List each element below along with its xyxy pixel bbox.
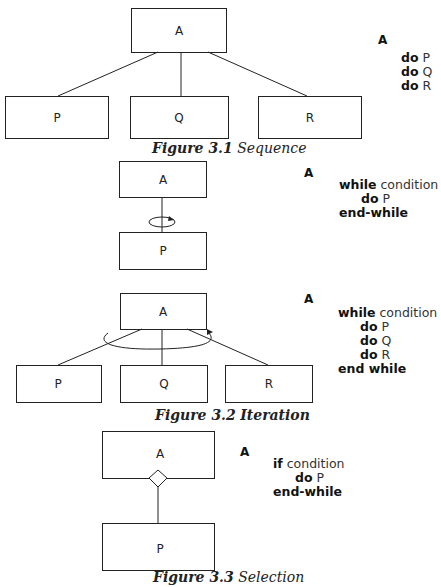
- selection-diamond-icon: [149, 470, 167, 487]
- box-label: A: [159, 305, 168, 319]
- box-label: A: [159, 173, 168, 187]
- box-label: R: [306, 111, 314, 125]
- box-label: Q: [174, 111, 183, 125]
- box-label: P: [53, 111, 60, 125]
- figure-caption: Figure 3.1 Sequence: [152, 140, 307, 156]
- loop-icon: [104, 332, 211, 349]
- figure-caption: Figure 3.2 Iteration: [155, 407, 310, 423]
- box-label: A: [156, 447, 165, 461]
- box-label: P: [156, 542, 163, 556]
- box-label: P: [159, 244, 166, 258]
- box-label: P: [54, 377, 61, 391]
- loop-arrow-icon: [168, 216, 174, 221]
- box-label: A: [175, 24, 184, 38]
- box-label: Q: [159, 377, 168, 391]
- box-label: R: [265, 377, 273, 391]
- figure-caption: Figure 3.3 Selection: [153, 569, 304, 585]
- structure-diagrams: A P Q R A P A P Q R A P: [0, 0, 441, 587]
